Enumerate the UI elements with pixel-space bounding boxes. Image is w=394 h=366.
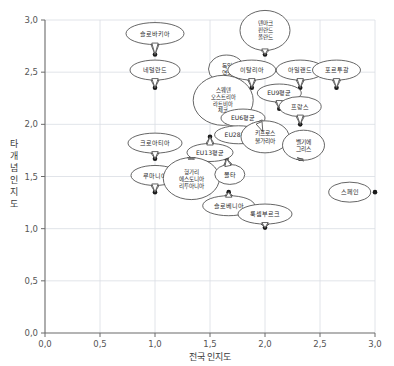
- callout-text-line: 오스트리아: [211, 93, 236, 101]
- callout-label: 덴마크핀란드폴란드: [240, 10, 290, 54]
- callout-label: 벨기에그리스: [283, 130, 325, 161]
- y-tick-label: 1,5: [24, 172, 38, 182]
- y-axis-title-char: 타: [10, 139, 19, 149]
- callout-text-line: 룩셈부르크: [250, 210, 280, 218]
- x-tick-label: 0,5: [93, 339, 107, 349]
- callout-text-line: 슬로바키아: [140, 30, 170, 38]
- callout-text-line: EU9평균: [267, 89, 291, 96]
- callout-text-line: 크로아티아: [140, 139, 170, 147]
- callout-text-line: EU13평균: [196, 149, 224, 156]
- callout-text-line: 라트비아: [213, 100, 233, 108]
- callout-label: 룩셈부르크: [238, 204, 292, 228]
- callout-text-line: 키프로스: [255, 129, 276, 137]
- y-tick-label: 0,0: [24, 328, 38, 338]
- x-tick-label: 2,5: [313, 339, 327, 349]
- y-tick-label: 2,5: [24, 67, 38, 77]
- callout-text-line: 불가리아: [255, 137, 276, 145]
- callout-text-line: 스웨덴: [216, 86, 231, 94]
- x-tick-label: 1,5: [203, 339, 217, 349]
- callout-text-line: 프랑스: [291, 103, 309, 110]
- callout-label: 헝가리에스토니아리투아니아: [163, 158, 219, 200]
- y-tick-label: 0,5: [24, 276, 38, 286]
- callout-label: 프랑스: [279, 97, 321, 125]
- callout-text-line: 그리스: [296, 145, 312, 153]
- point-labels: 슬로바키아네덜란드덴마크핀란드폴란드독일영국이탈리아아일랜드포르투갈EU9평균스…: [126, 10, 371, 227]
- callout-text-line: 덴마크: [258, 19, 273, 27]
- y-axis-title-char: 개: [10, 151, 18, 161]
- callout-label: 슬로바키아: [126, 23, 184, 55]
- y-axis-title-char: 념: [10, 163, 18, 173]
- scatter-chart: 0,00,51,01,52,02,53,00,00,51,01,52,02,53…: [0, 0, 394, 366]
- callout-label: 네덜란드: [130, 60, 180, 88]
- callout-text-line: 네덜란드: [143, 66, 167, 74]
- y-tick-label: 1,0: [24, 224, 38, 234]
- callout-text-line: EU6평균: [231, 114, 255, 121]
- callout-text-line: 폴란드: [258, 34, 273, 40]
- data-point-marker: [373, 190, 378, 195]
- y-axis-title-char: 인: [10, 175, 18, 185]
- callout-text-line: 헝가리: [184, 168, 199, 176]
- y-tick-label: 2,0: [24, 119, 38, 129]
- callout-text-line: 이탈리아: [240, 66, 264, 74]
- x-axis-title: 전국 인지도: [189, 352, 232, 362]
- callout-text-line: 몰타: [224, 171, 236, 179]
- callout-text-line: 슬로베니아: [214, 202, 244, 210]
- x-tick-label: 1,0: [148, 339, 162, 349]
- callout-text-line: 스페인: [341, 188, 359, 196]
- callout-text-line: 에스토니아: [179, 175, 204, 183]
- callout-label: 몰타: [215, 159, 245, 185]
- x-tick-label: 0,0: [38, 339, 52, 349]
- y-axis-title-char: 지: [10, 187, 18, 197]
- x-tick-label: 2,0: [258, 339, 272, 349]
- y-axis-title-char: 도: [10, 199, 18, 209]
- callout-label: 스페인: [329, 182, 371, 202]
- callout-text-line: 포르투갈: [325, 66, 349, 74]
- chart-canvas: 0,00,51,01,52,02,53,00,00,51,01,52,02,53…: [0, 0, 394, 366]
- callout-text-line: 벨기에: [296, 138, 311, 146]
- x-tick-label: 3,0: [368, 339, 382, 349]
- callout-text-line: 리투아니아: [179, 182, 204, 190]
- callout-label: 크로아티아: [128, 133, 182, 159]
- y-tick-label: 3,0: [24, 15, 38, 25]
- callout-text-line: 핀란드: [258, 26, 273, 33]
- callout-text-line: 아일랜드: [288, 66, 312, 74]
